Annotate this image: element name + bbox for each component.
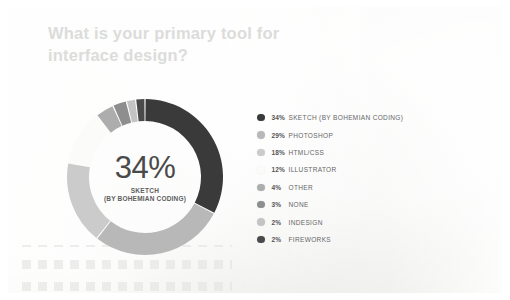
legend-color-swatch-icon: [257, 201, 265, 209]
donut-chart-svg: [66, 98, 224, 256]
chart-legend: 34%SKETCH (BY BOHEMIAN CODING)29%PHOTOSH…: [257, 109, 403, 248]
legend-item[interactable]: 34%SKETCH (BY BOHEMIAN CODING): [257, 109, 403, 126]
legend-item-label: OTHER: [289, 184, 314, 191]
legend-color-swatch-icon: [257, 166, 265, 174]
legend-item[interactable]: 29%PHOTOSHOP: [257, 126, 403, 143]
legend-item-percent: 34%: [272, 114, 289, 121]
legend-item-percent: 2%: [272, 219, 289, 226]
legend-color-swatch-icon: [257, 236, 265, 244]
screenshot-root: What is your primary tool for interface …: [0, 0, 510, 300]
legend-item[interactable]: 18%HTML/CSS: [257, 144, 403, 161]
donut-segment: [145, 99, 223, 213]
legend-item-percent: 18%: [272, 149, 289, 156]
legend-item-label: NONE: [289, 201, 309, 208]
page-title-line-1: What is your primary tool for: [48, 22, 348, 44]
donut-segment: [136, 99, 144, 121]
legend-item-percent: 29%: [272, 132, 289, 139]
legend-color-swatch-icon: [257, 149, 265, 157]
legend-item-label: PHOTOSHOP: [289, 132, 334, 139]
legend-item-percent: 2%: [272, 236, 289, 243]
legend-item-label: SKETCH (BY BOHEMIAN CODING): [289, 114, 404, 121]
page-title-line-2: interface design?: [48, 44, 348, 66]
legend-item-percent: 3%: [272, 201, 289, 208]
legend-color-swatch-icon: [257, 114, 265, 122]
legend-item[interactable]: 4%OTHER: [257, 179, 403, 196]
legend-item[interactable]: 3%NONE: [257, 196, 403, 213]
legend-item[interactable]: 2%INDESIGN: [257, 213, 403, 230]
legend-item-percent: 12%: [272, 166, 289, 173]
legend-item-percent: 4%: [272, 184, 289, 191]
legend-color-swatch-icon: [257, 131, 265, 139]
legend-item[interactable]: 12%ILLUSTRATOR: [257, 161, 403, 178]
legend-item-label: INDESIGN: [289, 219, 323, 226]
legend-item[interactable]: 2%FIREWORKS: [257, 231, 403, 248]
legend-item-label: FIREWORKS: [289, 236, 332, 243]
legend-item-label: ILLUSTRATOR: [289, 166, 337, 173]
donut-chart: 34% SKETCH (BY BOHEMIAN CODING): [66, 98, 224, 256]
donut-segment: [67, 164, 110, 238]
legend-color-swatch-icon: [257, 218, 265, 226]
legend-color-swatch-icon: [257, 184, 265, 192]
page-title: What is your primary tool for interface …: [48, 22, 348, 66]
legend-item-label: HTML/CSS: [289, 149, 325, 156]
donut-segment: [97, 203, 213, 255]
donut-segments: [67, 99, 223, 255]
